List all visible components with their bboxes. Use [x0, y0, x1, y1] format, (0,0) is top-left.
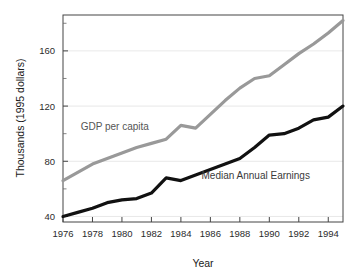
x-tick-label: 1976	[52, 228, 73, 239]
chart-figure: 4080120160 19761978198019821984198619881…	[0, 0, 360, 276]
y-axis-title: Thousands (1995 dollars)	[14, 58, 26, 177]
x-tick-label: 1986	[200, 228, 221, 239]
x-tick-label: 1978	[82, 228, 103, 239]
x-tick-label: 1990	[259, 228, 280, 239]
x-tick-label: 1982	[141, 228, 162, 239]
y-tick-label: 160	[39, 45, 55, 56]
x-tick-label: 1988	[229, 228, 250, 239]
y-tick-label: 80	[44, 156, 55, 167]
series-annotation-gdp-per-capita: GDP per capita	[81, 121, 150, 132]
x-tick-label: 1984	[170, 228, 191, 239]
x-tick-label: 1992	[288, 228, 309, 239]
x-tick-label: 1980	[111, 228, 132, 239]
x-tick-label: 1994	[318, 228, 339, 239]
y-tick-label: 40	[44, 211, 55, 222]
x-axis-title: Year	[192, 257, 214, 269]
series-annotation-median-annual-earnings: Median Annual Earnings	[202, 170, 310, 181]
y-tick-label: 120	[39, 101, 55, 112]
